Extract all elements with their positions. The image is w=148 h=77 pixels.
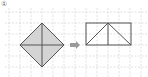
rotated-square-shape <box>20 23 64 67</box>
geometry-diagram <box>0 0 148 77</box>
